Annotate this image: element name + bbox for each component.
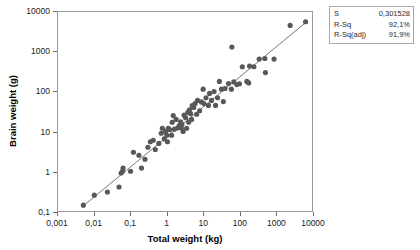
scatter-point <box>92 193 97 198</box>
stats-key-s: S <box>334 9 339 20</box>
scatter-point <box>142 157 147 162</box>
scatter-point <box>145 145 150 150</box>
x-tick-label-10000: 10000 <box>301 219 325 228</box>
x-tick-mark-1 <box>167 212 168 216</box>
stats-value-s: 0,301528 <box>379 9 410 20</box>
scatter-point <box>105 189 110 194</box>
scatter-point <box>201 101 206 106</box>
y-tick-label-10000: 10000 <box>2 7 50 16</box>
scatter-point <box>116 184 121 189</box>
y-tick-label-0-1: 0,1 <box>2 208 50 217</box>
scatter-point <box>263 70 268 75</box>
scatter-point <box>222 86 227 91</box>
scatter-point <box>226 81 231 86</box>
scatter-point <box>136 153 141 158</box>
scatter-point <box>183 115 188 120</box>
x-tick-mark-100 <box>240 212 241 216</box>
stats-value-r-sq-adj: 91,9% <box>389 30 410 41</box>
scatter-point <box>206 103 211 108</box>
scatter-point <box>156 141 161 146</box>
scatter-point <box>151 138 156 143</box>
scatter-point <box>169 133 174 138</box>
scatter-point <box>131 150 136 155</box>
x-tick-label-0-01: 0,01 <box>85 219 102 228</box>
scatter-point <box>203 95 208 100</box>
x-tick-label-100: 100 <box>233 219 247 228</box>
scatter-point <box>215 95 220 100</box>
scatter-point <box>164 133 169 138</box>
scatter-point <box>240 64 245 69</box>
scatter-point <box>229 44 234 49</box>
x-tick-label-10: 10 <box>199 219 208 228</box>
scatter-point <box>179 122 184 127</box>
scatter-point <box>246 80 251 85</box>
x-tick-mark-0-001 <box>57 212 58 216</box>
scatter-point <box>262 56 267 61</box>
scatter-point <box>237 81 242 86</box>
scatter-point <box>211 89 216 94</box>
scatter-point <box>209 98 214 103</box>
x-tick-label-0-001: 0,001 <box>46 219 67 228</box>
stats-key-r-sq-adj: R-Sq(adj) <box>334 30 366 41</box>
statistics-box: S 0,301528 R-Sq 92,1% R-Sq(adj) 91,9% <box>329 6 414 44</box>
scatter-data-layer <box>58 12 312 211</box>
scatter-point <box>303 19 308 24</box>
scatter-chart-figure: 10000 1000 100 10 1 0,1 0,001 0,01 0,1 1… <box>0 0 420 250</box>
scatter-point <box>288 23 293 28</box>
stats-value-r-sq: 92,1% <box>389 20 410 31</box>
y-tick-label-1: 1 <box>2 168 50 177</box>
scatter-point <box>184 126 189 131</box>
x-tick-label-1: 1 <box>164 219 169 228</box>
stats-row-s: S 0,301528 <box>334 9 410 20</box>
scatter-point <box>207 91 212 96</box>
x-tick-mark-1000 <box>276 212 277 216</box>
scatter-point <box>197 108 202 113</box>
scatter-point <box>189 117 194 122</box>
scatter-point <box>251 64 256 69</box>
stats-row-r-sq-adj: R-Sq(adj) 91,9% <box>334 30 410 41</box>
y-axis-title: Brain weight (g) <box>7 75 18 147</box>
scatter-point <box>153 147 158 152</box>
scatter-point <box>271 57 276 62</box>
scatter-point <box>167 127 172 132</box>
scatter-point <box>120 165 125 170</box>
scatter-point <box>247 63 252 68</box>
scatter-point <box>174 117 179 122</box>
x-tick-mark-0-01 <box>94 212 95 216</box>
y-tick-label-1000: 1000 <box>2 47 50 56</box>
scatter-point <box>257 57 262 62</box>
x-tick-label-1000: 1000 <box>267 219 286 228</box>
stats-key-r-sq: R-Sq <box>334 20 351 31</box>
scatter-point <box>213 103 218 108</box>
x-tick-mark-10 <box>203 212 204 216</box>
x-axis-title: Total weight (kg) <box>148 233 223 244</box>
scatter-point <box>188 111 193 116</box>
x-tick-mark-0-1 <box>130 212 131 216</box>
x-tick-label-0-1: 0,1 <box>124 219 136 228</box>
scatter-point <box>217 79 222 84</box>
scatter-point <box>139 165 144 170</box>
scatter-point <box>128 169 133 174</box>
scatter-point <box>229 87 234 92</box>
stats-row-r-sq: R-Sq 92,1% <box>334 20 410 31</box>
scatter-point <box>221 99 226 104</box>
x-tick-mark-10000 <box>313 212 314 216</box>
scatter-point <box>201 87 206 92</box>
scatter-point <box>165 139 170 144</box>
scatter-point <box>81 203 86 208</box>
plot-area <box>57 11 313 212</box>
